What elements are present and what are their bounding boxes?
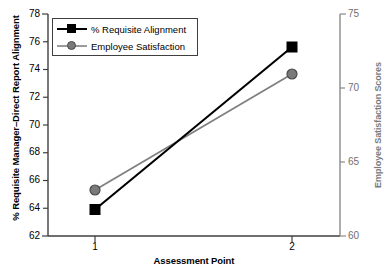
legend-label-employee-satisfaction: Employee Satisfaction [91, 41, 185, 52]
legend-swatch-square-icon [57, 22, 87, 36]
axis-right-ticks [340, 14, 346, 236]
series-line-employee-satisfaction [95, 74, 292, 190]
series-requisite-alignment [90, 42, 297, 215]
chart-container: % Requisite Manager–Direct Report Alignm… [0, 0, 387, 276]
series-employee-satisfaction [90, 69, 297, 195]
legend-item-requisite-alignment: % Requisite Alignment [57, 21, 186, 37]
data-point-alignment-2 [287, 42, 297, 52]
legend: % Requisite Alignment Employee Satisfact… [52, 18, 198, 56]
data-point-satisfaction-2 [287, 69, 297, 79]
axis-left-ticks [42, 14, 48, 236]
legend-label-requisite-alignment: % Requisite Alignment [91, 24, 186, 35]
data-point-alignment-1 [90, 205, 100, 215]
legend-item-employee-satisfaction: Employee Satisfaction [57, 38, 185, 54]
legend-swatch-circle-icon [57, 39, 87, 53]
series-line-requisite-alignment [95, 47, 292, 210]
data-point-satisfaction-1 [90, 185, 100, 195]
axis-x-ticks [95, 236, 292, 242]
